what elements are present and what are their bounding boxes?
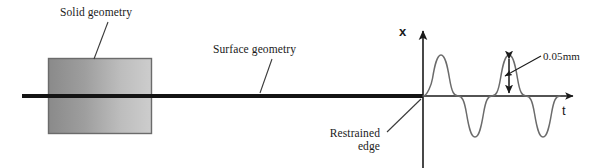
restrained-edge-line-1: Restrained xyxy=(330,127,380,139)
restrained-edge-leader-line xyxy=(387,99,421,132)
restrained-edge-line-2: edge xyxy=(302,140,380,153)
label-solid-geometry: Solid geometry xyxy=(60,6,132,19)
label-surface-geometry: Surface geometry xyxy=(213,43,296,56)
solid-geometry-leader-line xyxy=(94,22,108,59)
label-amplitude-value: 0.05mm xyxy=(543,50,580,63)
amplitude-leader-line xyxy=(505,56,541,76)
label-axis-t: t xyxy=(562,104,566,117)
label-restrained-edge: Restrainededge xyxy=(302,127,380,153)
label-axis-x: x xyxy=(399,25,406,38)
surface-geometry-leader-line xyxy=(260,59,272,93)
figure-root: Solid geometry Surface geometry Restrain… xyxy=(0,0,612,168)
